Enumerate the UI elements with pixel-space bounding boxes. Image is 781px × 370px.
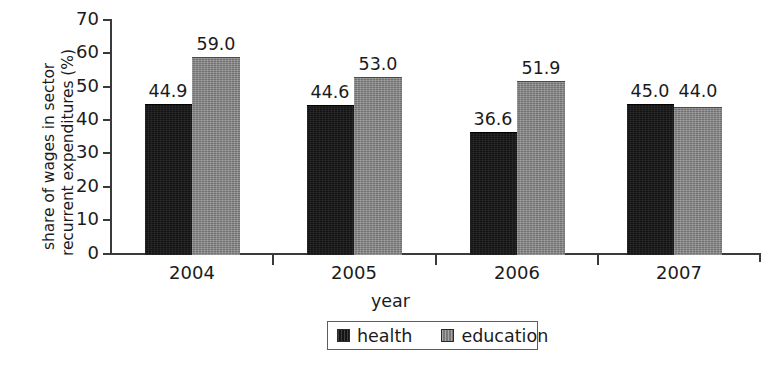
- legend-item-education: education: [441, 327, 548, 345]
- legend-swatch-education-icon: [441, 329, 454, 342]
- x-tick-mark-1: [272, 255, 274, 265]
- value-label-health-2004: 44.9: [133, 82, 203, 100]
- bar-health-2007: [627, 104, 674, 255]
- bar-education-2007: [674, 107, 722, 255]
- bar-health-2004: [145, 104, 192, 255]
- x-tick-mark-3: [597, 255, 599, 265]
- value-label-education-2004: 59.0: [181, 35, 251, 53]
- value-label-education-2005: 53.0: [343, 55, 413, 73]
- x-tick-label-2005: 2005: [294, 263, 414, 283]
- value-label-health-2006: 36.6: [458, 110, 528, 128]
- x-tick-mark-2: [435, 255, 437, 265]
- legend-label-health: health: [357, 327, 412, 345]
- x-tick-label-2007: 2007: [619, 263, 739, 283]
- x-tick-label-2004: 2004: [132, 263, 252, 283]
- legend-item-health: health: [337, 327, 412, 345]
- bar-education-2005: [354, 77, 402, 255]
- chart-legend: health education: [327, 321, 538, 350]
- bar-health-2006: [470, 132, 517, 255]
- bars-layer: [0, 0, 781, 255]
- value-label-education-2006: 51.9: [506, 59, 576, 77]
- value-label-education-2007: 44.0: [663, 82, 733, 100]
- bar-chart: share of wages in sector recurrent expen…: [0, 0, 781, 370]
- x-tick-label-2006: 2006: [457, 263, 577, 283]
- bar-health-2005: [307, 105, 354, 255]
- legend-swatch-health-icon: [337, 329, 350, 342]
- x-axis-title: year: [0, 291, 781, 311]
- value-label-health-2005: 44.6: [295, 83, 365, 101]
- bar-education-2006: [517, 81, 565, 255]
- legend-label-education: education: [461, 327, 548, 345]
